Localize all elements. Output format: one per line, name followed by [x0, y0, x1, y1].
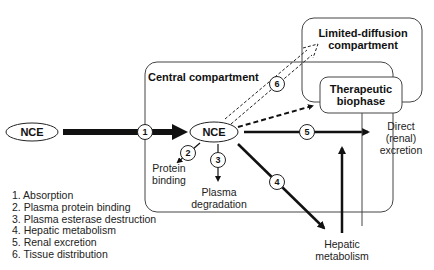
nce-outside-label: NCE	[6, 126, 58, 138]
therapeutic-biophase-label: Therapeutic biophase	[320, 83, 402, 107]
step-4-badge: 4	[270, 176, 284, 188]
plasma-degradation-label: Plasma degradation	[186, 186, 252, 210]
step-5-badge: 5	[300, 126, 314, 138]
limited-diffusion-label: Limited-diffusion compartment	[305, 27, 421, 51]
biophase-arrow	[238, 106, 312, 127]
step-3-badge: 3	[211, 154, 225, 166]
legend-item: 2. Plasma protein binding	[12, 202, 156, 214]
hepatic-metabolism-label: Hepatic metabolism	[300, 238, 384, 262]
central-compartment-label: Central compartment	[148, 71, 278, 83]
legend-item: 6. Tissue distribution	[12, 249, 156, 261]
step-1-badge: 1	[138, 126, 152, 138]
step-2-badge: 2	[181, 147, 195, 159]
protein-binding-label: Protein binding	[146, 162, 192, 186]
legend: 1. Absorption 2. Plasma protein binding …	[12, 190, 156, 261]
renal-excretion-label: Direct (renal) excretion	[372, 120, 430, 156]
step-6-badge: 6	[270, 78, 284, 90]
nce-central-label: NCE	[190, 126, 238, 138]
